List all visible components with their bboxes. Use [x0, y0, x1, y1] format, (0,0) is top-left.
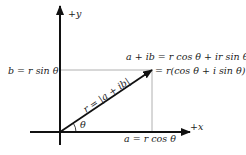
angle-arc	[73, 123, 76, 132]
point-equation-line1: a + ib = r cos θ + ir sin θ	[126, 51, 246, 62]
modulus-label: r = |a + ib|	[81, 75, 132, 115]
complex-plane-diagram: +y +x b = r sin θ a = r cos θ θ r = |a +…	[0, 0, 246, 155]
y-axis-label: +y	[68, 8, 82, 19]
b-projection-label: b = r sin θ	[8, 65, 59, 76]
point-equation-line2: = r(cos θ + i sin θ)	[155, 65, 246, 76]
x-axis-label: +x	[190, 121, 204, 132]
angle-label: θ	[80, 119, 86, 130]
a-projection-label: a = r cos θ	[124, 133, 176, 144]
